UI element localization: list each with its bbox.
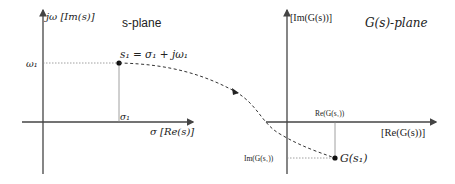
- g-plane: [Im(G(s))] G(s)-plane Re(G(s₁)) [Re(G(s)…: [244, 10, 436, 174]
- mapping-diagram: jω [Im(s)] s-plane ω₁ s₁ = σ₁ + jω₁ σ₁ σ…: [0, 0, 455, 184]
- mapping-curve: [119, 63, 335, 158]
- re-g-s1-tick-label: Re(G(s₁)): [315, 109, 345, 118]
- im-g-s1-tick-label: Im(G(s₁)): [244, 154, 274, 163]
- g-s1-point-label: G(s₁): [340, 152, 367, 165]
- s-plane-title: s-plane: [122, 16, 162, 30]
- g-plane-x-axis-label: [Re(G(s))]: [381, 127, 425, 139]
- s-plane-y-axis-label: jω [Im(s)]: [44, 11, 95, 22]
- sigma1-tick-label: σ₁: [120, 112, 130, 122]
- g-s1-point: [332, 155, 337, 160]
- s-plane-x-axis-label: σ [Re(s)]: [150, 126, 194, 137]
- g-plane-title: G(s)-plane: [365, 16, 428, 30]
- omega1-tick-label: ω₁: [26, 58, 38, 69]
- g-plane-y-axis-label: [Im(G(s))]: [290, 12, 332, 24]
- s-plane: jω [Im(s)] s-plane ω₁ s₁ = σ₁ + jω₁ σ₁ σ…: [22, 10, 194, 174]
- curve-direction-arrow-icon: [232, 88, 239, 95]
- s1-point-label: s₁ = σ₁ + jω₁: [120, 48, 188, 60]
